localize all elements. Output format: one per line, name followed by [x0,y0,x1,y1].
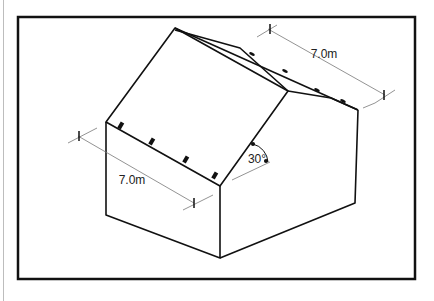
roof-pitch-label: 30° [248,152,266,166]
diagram-frame [18,17,415,279]
eave-length-label: 7.0m [119,173,146,187]
eave-vents [117,121,218,179]
building [106,28,358,258]
left-wall [106,122,220,258]
right-wall [220,110,358,258]
building-diagram: 7.0m 7.0m 30° [0,0,434,301]
ridge-length-label: 7.0m [311,47,338,61]
